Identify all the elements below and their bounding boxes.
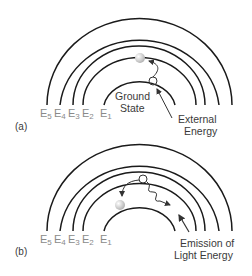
level-label: E5 [40, 107, 52, 121]
level-label: E4 [54, 107, 66, 121]
level-label: E5 [40, 233, 52, 247]
panel-label-b: (b) [15, 246, 27, 257]
panel-a: E5 E4 E3 E2 E1 Ground State External Ene… [15, 19, 232, 137]
level-label: E3 [68, 107, 80, 121]
panel-b: E5 E4 E3 E2 E1 Emission of Light Energy … [15, 145, 234, 261]
energy-level-diagram: E5 E4 E3 E2 E1 Ground State External Ene… [0, 0, 252, 276]
electron-ground [115, 200, 125, 210]
external-label-2: Energy [184, 125, 218, 137]
emission-label-1: Emission of [180, 237, 234, 249]
emission-label-2: Light Energy [174, 249, 234, 261]
level-label: E2 [82, 107, 94, 121]
ground-label-1: Ground [115, 90, 150, 102]
deexcitation-arrow [122, 180, 139, 196]
external-label-1: External [178, 113, 217, 125]
excitation-arrow [149, 61, 158, 77]
ground-label-2: State [120, 102, 145, 114]
arc-e1 [104, 208, 175, 231]
electron-excited [135, 53, 145, 63]
level-label: E2 [82, 233, 94, 247]
energy-level-arcs [47, 145, 232, 231]
level-labels-a: E5 E4 E3 E2 E1 [40, 107, 112, 121]
level-label: E4 [54, 233, 66, 247]
emission-arrow [179, 215, 189, 232]
level-label: E1 [100, 107, 112, 121]
level-labels-b: E5 E4 E3 E2 E1 [40, 233, 112, 247]
panel-label-a: (a) [15, 121, 27, 132]
electron-excited-outline [139, 175, 147, 183]
level-label: E1 [100, 233, 112, 247]
level-label: E3 [68, 233, 80, 247]
